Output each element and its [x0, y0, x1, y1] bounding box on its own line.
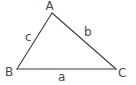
side-a-label: a [58, 70, 65, 84]
triangle-diagram: A B C c b a [0, 0, 136, 85]
side-b-label: b [84, 25, 92, 39]
side-b-line [52, 13, 116, 69]
side-c-label: c [25, 30, 32, 44]
vertex-c-label: C [118, 66, 126, 80]
vertex-b-label: B [5, 65, 13, 79]
triangle-canvas: A B C c b a [0, 0, 136, 85]
vertex-a-label: A [46, 0, 55, 13]
side-c-line [17, 13, 52, 69]
